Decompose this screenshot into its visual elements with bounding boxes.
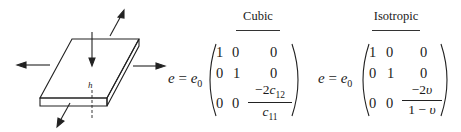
isotropic-m33-denominator: 1 − υ — [408, 103, 435, 118]
isotropic-m21: 0 — [369, 66, 376, 81]
isotropic-m22: 1 — [387, 66, 394, 81]
isotropic-m12: 0 — [386, 45, 393, 60]
isotropic-m31: 0 — [369, 96, 376, 111]
isotropic-fraction-bar — [402, 100, 442, 101]
isotropic-m11: 1 — [369, 45, 376, 60]
isotropic-m32: 0 — [386, 96, 393, 111]
isotropic-num-var: υ — [426, 82, 432, 97]
isotropic-m33-numerator: −2υ — [412, 83, 433, 98]
isotropic-m33-fraction: −2υ 1 − υ — [402, 83, 442, 118]
isotropic-num-prefix: −2 — [412, 82, 426, 97]
isotropic-den-prefix: 1 − — [408, 102, 429, 117]
isotropic-den-var: υ — [429, 102, 435, 117]
isotropic-m23: 0 — [420, 66, 427, 81]
isotropic-m13: 0 — [420, 45, 427, 60]
